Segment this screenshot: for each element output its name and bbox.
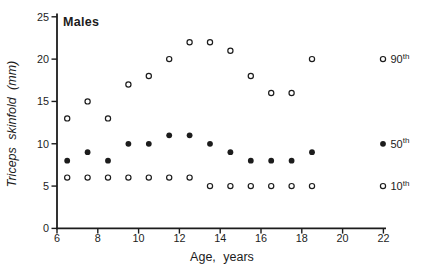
y-axis-label: Triceps skinfold (mm) <box>5 61 19 188</box>
data-point-50th <box>125 141 131 147</box>
data-point-90th <box>126 82 131 87</box>
data-point-90th <box>65 116 70 121</box>
data-point-50th <box>268 158 274 164</box>
x-tick-label: 20 <box>337 232 349 244</box>
filled-circle-icon <box>380 141 386 147</box>
data-point-90th <box>309 57 314 62</box>
y-tick-label: 0 <box>43 222 49 234</box>
x-tick-label: 22 <box>377 232 389 244</box>
data-point-10th <box>269 184 274 189</box>
y-tick-label: 10 <box>37 138 49 150</box>
data-point-50th <box>85 149 91 155</box>
y-tick-label: 15 <box>37 95 49 107</box>
x-tick-label: 10 <box>133 232 145 244</box>
legend-label: 50th <box>391 136 410 149</box>
data-point-50th <box>248 158 254 164</box>
y-tick-label: 25 <box>37 11 49 23</box>
x-tick-label: 16 <box>255 232 267 244</box>
data-point-90th <box>105 116 110 121</box>
data-point-90th <box>167 57 172 62</box>
legend-item-90th: 90th <box>380 52 409 65</box>
x-axis-label: Age, years <box>190 250 254 264</box>
data-point-10th <box>309 184 314 189</box>
legend-item-50th: 50th <box>380 136 409 149</box>
data-point-90th <box>228 48 233 53</box>
data-point-90th <box>289 90 294 95</box>
data-point-10th <box>126 175 131 180</box>
data-point-90th <box>146 73 151 78</box>
data-point-50th <box>207 141 213 147</box>
data-point-50th <box>64 158 70 164</box>
x-tick-label: 12 <box>173 232 185 244</box>
open-circle-icon <box>380 184 385 189</box>
data-point-10th <box>187 175 192 180</box>
data-point-90th <box>85 99 90 104</box>
data-point-50th <box>146 141 152 147</box>
data-point-90th <box>187 40 192 45</box>
data-point-10th <box>85 175 90 180</box>
legend-item-10th: 10th <box>380 179 409 192</box>
data-point-50th <box>309 149 315 155</box>
axes-layer: 05101520256810121416182022 <box>37 11 389 245</box>
open-circle-icon <box>380 57 385 62</box>
x-tick-label: 14 <box>214 232 226 244</box>
y-tick-label: 20 <box>37 53 49 65</box>
x-tick-label: 6 <box>54 232 60 244</box>
data-point-50th <box>289 158 295 164</box>
triceps-skinfold-chart: 05101520256810121416182022 90th50th10th … <box>0 0 428 278</box>
data-point-50th <box>187 132 193 138</box>
chart-svg: 05101520256810121416182022 90th50th10th … <box>0 0 428 278</box>
data-point-10th <box>228 184 233 189</box>
data-point-10th <box>105 175 110 180</box>
x-tick-label: 8 <box>95 232 101 244</box>
data-point-50th <box>228 149 234 155</box>
x-tick-label: 18 <box>296 232 308 244</box>
legend-layer: 90th50th10th <box>380 52 409 192</box>
data-point-10th <box>65 175 70 180</box>
data-point-90th <box>269 90 274 95</box>
data-point-10th <box>167 175 172 180</box>
data-point-50th <box>166 132 172 138</box>
data-point-10th <box>248 184 253 189</box>
data-point-10th <box>289 184 294 189</box>
chart-title: Males <box>63 15 99 29</box>
data-point-90th <box>248 73 253 78</box>
data-point-90th <box>207 40 212 45</box>
legend-label: 90th <box>391 52 410 65</box>
data-point-50th <box>105 158 111 164</box>
y-tick-label: 5 <box>43 180 49 192</box>
legend-label: 10th <box>391 179 410 192</box>
data-point-10th <box>207 184 212 189</box>
points-layer <box>64 40 315 189</box>
data-point-10th <box>146 175 151 180</box>
